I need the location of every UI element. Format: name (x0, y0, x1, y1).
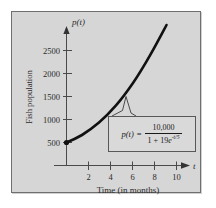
y-axis-symbol-label: p(t) (71, 17, 85, 27)
x-tick-label-2: 2 (86, 172, 90, 182)
y-axis-title: Fish population (24, 69, 34, 123)
equation-fraction: 10,000 1 + 19e-t/5 (145, 124, 183, 145)
x-tick-label-10: 10 (172, 172, 181, 182)
y-tick-label-500: 500 (47, 138, 60, 148)
equation-denominator: 1 + 19e-t/5 (145, 134, 183, 145)
denominator-one: 1 (148, 135, 152, 144)
y-tick-label-2000: 2000 (43, 69, 60, 79)
y-tick-label-1000: 1000 (43, 115, 60, 125)
y-tick-label-2500: 2500 (43, 46, 60, 56)
y-axis-arrow-icon (63, 26, 69, 34)
y-tick-label-1500: 1500 (43, 92, 60, 102)
x-tick-label-8: 8 (152, 172, 156, 182)
equation-equals-sign: = (137, 130, 142, 139)
callout-leader-line-secondary (126, 97, 136, 117)
denominator-coefficient: 19 (160, 135, 168, 144)
equation-callout-box: p(t) = 10,000 1 + 19e-t/5 (108, 116, 196, 152)
x-axis-symbol-label: t (193, 161, 196, 171)
initial-point-marker (64, 140, 69, 145)
population-growth-chart: 500 1000 1500 2000 2500 2 4 6 8 10 p(t) … (0, 0, 216, 208)
denominator-exponent: -t/5 (172, 134, 180, 140)
equation-row: p(t) = 10,000 1 + 19e-t/5 (122, 124, 183, 145)
equation-lhs: p(t) (122, 130, 134, 139)
x-axis-arrow-icon (181, 162, 190, 168)
x-tick-label-6: 6 (130, 172, 134, 182)
x-tick-label-4: 4 (108, 172, 113, 182)
figure-root: 500 1000 1500 2000 2500 2 4 6 8 10 p(t) … (0, 0, 216, 208)
x-axis-title: Time (in months) (97, 185, 160, 195)
equation-numerator: 10,000 (150, 124, 178, 133)
denominator-plus: + (154, 135, 159, 144)
